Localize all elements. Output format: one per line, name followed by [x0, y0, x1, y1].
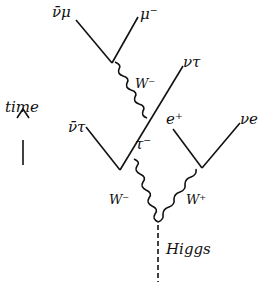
diagram-lines	[0, 0, 267, 287]
label-nu-tau: ντ	[183, 53, 200, 71]
label-nu-e: νe	[240, 110, 258, 128]
label-w-minus: W⁻	[109, 192, 129, 207]
label-w-plus: W⁺	[186, 192, 206, 207]
feynman-diagram: ν̄μ μ⁻ ντ W⁻ time ν̄τ e⁺ νe τ⁻ W⁻ W⁺ Hig…	[0, 0, 267, 287]
label-higgs: Higgs	[166, 240, 211, 258]
label-w-minus-upper: W⁻	[135, 76, 155, 91]
label-e-plus: e⁺	[166, 110, 183, 128]
label-tau-minus: τ⁻	[135, 135, 151, 153]
label-mu-minus: μ⁻	[140, 5, 158, 23]
label-nubar-tau: ν̄τ	[68, 118, 85, 136]
label-nubar-mu: ν̄μ	[52, 3, 71, 21]
label-time: time	[5, 98, 39, 116]
